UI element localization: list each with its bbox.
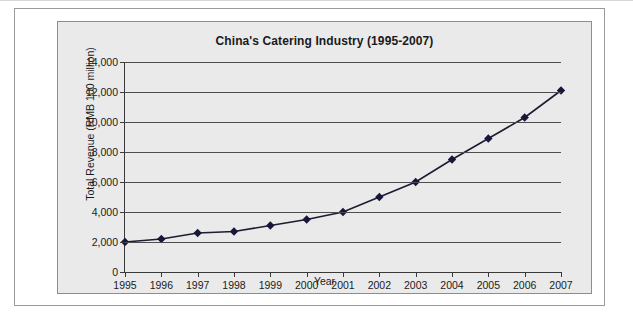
gridline: [125, 122, 561, 123]
data-point-marker: [448, 155, 456, 163]
figure-frame: China's Catering Industry (1995-2007) To…: [14, 8, 605, 306]
y-tick-label: 4,000: [92, 206, 118, 218]
y-tick-label: 2,000: [92, 236, 118, 248]
plot-area: 02,0004,0006,0008,00010,00012,00014,0001…: [124, 62, 561, 273]
revenue-line-series: [125, 62, 561, 272]
data-point-marker: [375, 193, 383, 201]
data-point-marker: [302, 215, 310, 223]
gridline: [125, 182, 561, 183]
data-point-marker: [484, 134, 492, 142]
y-tick-label: 14,000: [86, 56, 118, 68]
gridline: [125, 92, 561, 93]
y-tick-mark: [120, 182, 125, 183]
y-tick-label: 8,000: [92, 146, 118, 158]
gridline: [125, 152, 561, 153]
y-tick-label: 10,000: [86, 116, 118, 128]
y-tick-mark: [120, 242, 125, 243]
gridline: [125, 242, 561, 243]
series-line: [125, 91, 561, 243]
data-point-marker: [193, 229, 201, 237]
x-axis-title: Year: [58, 275, 591, 287]
gridline: [125, 212, 561, 213]
y-tick-label: 6,000: [92, 176, 118, 188]
data-point-marker: [266, 221, 274, 229]
y-tick-mark: [120, 122, 125, 123]
data-point-marker: [230, 227, 238, 235]
y-tick-mark: [120, 212, 125, 213]
page-top-rule: [0, 0, 633, 1]
chart-title: China's Catering Industry (1995-2007): [58, 34, 591, 48]
y-tick-mark: [120, 152, 125, 153]
chart-card: China's Catering Industry (1995-2007) To…: [57, 21, 592, 294]
y-tick-mark: [120, 62, 125, 63]
gridline: [125, 62, 561, 63]
y-tick-mark: [120, 92, 125, 93]
y-tick-label: 12,000: [86, 86, 118, 98]
